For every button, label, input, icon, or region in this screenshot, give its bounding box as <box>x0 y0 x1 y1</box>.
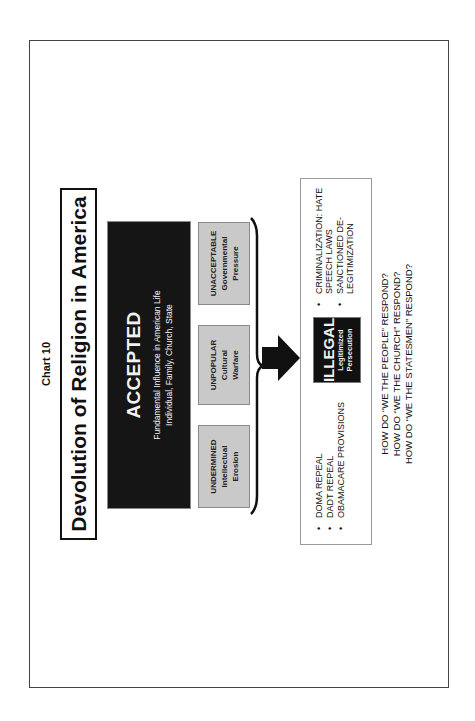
illegal-box: ILLEGAL Legitimized Persecution <box>313 317 361 383</box>
chart-title: Devolution of Religion in America <box>60 188 97 540</box>
bullet-item: CRIMINALIZATION: HATE SPEECH LAWS <box>314 180 334 308</box>
question-statesmen: HOW DO “WE THE STATESMEN” RESPOND? <box>403 40 415 688</box>
right-bullet-list: CRIMINALIZATION: HATE SPEECH LAWS SANCTI… <box>314 180 356 308</box>
stage-undermined: UNDERMINED Intellectual Erosion <box>198 425 250 508</box>
bullet-item: OBAMACARE PROVISIONS <box>336 392 346 532</box>
stage-line2: Warfare <box>230 350 241 380</box>
illegal-line2: Persecution <box>345 329 354 372</box>
stage-heading: UNPOPULAR <box>208 340 219 391</box>
response-questions: HOW DO “WE THE PEOPLE” RESPOND? HOW DO “… <box>379 40 415 688</box>
bullet-item: DADT REPEAL <box>325 392 335 532</box>
accepted-heading: ACCEPTED <box>123 312 145 419</box>
stage-heading: UNACCEPTABLE <box>208 231 219 297</box>
bullet-item: SANCTIONED DE-LEGITIMIZATION <box>335 180 355 308</box>
down-arrow-icon <box>262 333 302 383</box>
rotated-chart: Chart 10 Devolution of Religion in Ameri… <box>29 40 449 688</box>
left-bullet-list: DOMA REPEAL DADT REPEAL OBAMACARE PROVIS… <box>314 392 347 532</box>
accepted-line2: Individual, Family, Church, State <box>163 304 175 426</box>
stage-line2: Erosion <box>230 452 241 482</box>
question-people: HOW DO “WE THE PEOPLE” RESPOND? <box>379 40 391 688</box>
stage-line1: Intellectual <box>219 446 230 488</box>
stage-heading: UNDERMINED <box>208 439 219 493</box>
stage-line2: Pressure <box>230 246 241 280</box>
illegal-heading: ILLEGAL <box>321 318 336 382</box>
stage-unacceptable: UNACCEPTABLE Governmental Pressure <box>198 222 250 305</box>
accepted-box: ACCEPTED Fundamental Influence in Americ… <box>108 222 190 508</box>
bullet-item: DOMA REPEAL <box>314 392 324 532</box>
stage-unpopular: UNPOPULAR Cultural Warfare <box>198 325 250 405</box>
accepted-line1: Fundamental Influence in American Life <box>151 290 163 439</box>
question-church: HOW DO “WE THE CHURCH” RESPOND? <box>391 40 403 688</box>
illegal-line1: Legitimized <box>336 329 345 370</box>
stage-line1: Governmental <box>219 237 230 291</box>
chart-number: Chart 10 <box>40 40 52 688</box>
stage-line1: Cultural <box>219 350 230 380</box>
chart-title-text: Devolution of Religion in America <box>67 196 91 531</box>
